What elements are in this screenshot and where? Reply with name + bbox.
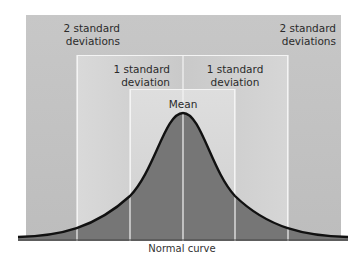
caption: Normal curve: [120, 243, 244, 254]
label-two-sd-right: 2 standard deviations: [250, 22, 336, 48]
label-mean: Mean: [150, 98, 216, 111]
label-one-sd-right: 1 standard deviation: [196, 63, 274, 89]
label-two-sd-left: 2 standard deviations: [40, 22, 120, 48]
normal-curve-diagram: 2 standard deviations 2 standard deviati…: [0, 0, 364, 260]
label-one-sd-left: 1 standard deviation: [92, 63, 170, 89]
